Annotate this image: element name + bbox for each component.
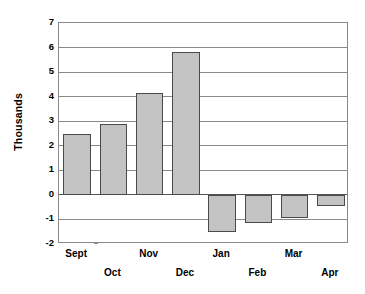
gridline [59, 121, 347, 122]
gridline [59, 219, 347, 220]
y-axis-tick-label: 4 [40, 91, 54, 101]
bar [317, 195, 345, 206]
x-axis-tick-label: Dec [176, 268, 194, 278]
y-axis-tick-label: 6 [40, 42, 54, 52]
bar [63, 134, 91, 195]
bar [208, 195, 236, 232]
bar [172, 52, 200, 195]
x-axis-tick-label: Sept [65, 249, 87, 259]
y-axis-title: Thousands [6, 0, 30, 244]
y-axis-tick-label: 0 [40, 189, 54, 199]
y-axis-tick-label: 7 [40, 17, 54, 27]
x-axis-tick-label: Mar [285, 249, 303, 259]
gridline [59, 96, 347, 97]
x-axis-tick-label: Nov [139, 249, 158, 259]
y-axis-tick-label: -2 [40, 238, 54, 248]
bar-chart: Thousands 76543210-1-2 SeptOctNovDecJanF… [0, 0, 365, 294]
gridline [59, 72, 347, 73]
bar [100, 124, 128, 195]
y-axis-tick-label: 5 [40, 66, 54, 76]
y-axis-tick-labels: 76543210-1-2 [36, 0, 54, 294]
x-axis-tick-label: Apr [321, 268, 338, 278]
y-axis-title-label: Thousands [12, 93, 24, 151]
bar [136, 93, 164, 195]
y-axis-tick-label: 1 [40, 165, 54, 175]
x-axis-tick-label: Feb [248, 268, 266, 278]
y-axis-tick-label: -1 [40, 214, 54, 224]
bar [281, 195, 309, 218]
bar [245, 195, 273, 223]
x-axis-tick-label: Jan [213, 249, 230, 259]
gridline [59, 47, 347, 48]
x-axis-tick-label: Oct [104, 268, 121, 278]
y-axis-tick-label: 2 [40, 140, 54, 150]
y-axis-tick-label: 3 [40, 115, 54, 125]
plot-area [58, 22, 348, 243]
